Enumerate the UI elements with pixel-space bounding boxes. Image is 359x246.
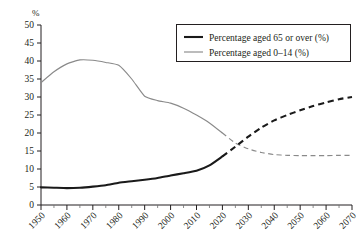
y-tick-label: 35 [25,74,35,84]
x-tick-label: 1970 [78,210,99,231]
x-tick-label: 2000 [156,210,177,231]
x-tick-label: 1960 [52,210,73,231]
y-axis-ticks [37,25,41,205]
chart-container: % 05101520253035404550 19501960197019801… [0,0,359,246]
y-tick-label: 0 [29,200,34,210]
legend-label-aged-0-14: Percentage aged 0–14 (%) [209,48,309,59]
x-tick-label: 1980 [104,210,125,231]
series-line-aged-0-14-projection [222,133,352,156]
x-tick-label: 1950 [26,210,47,231]
y-tick-label: 5 [29,182,34,192]
y-tick-label: 30 [25,92,35,102]
line-chart: % 05101520253035404550 19501960197019801… [0,0,359,246]
y-axis-tick-labels: 05101520253035404550 [25,20,35,210]
y-tick-label: 45 [25,38,35,48]
y-tick-label: 20 [25,128,35,138]
series-line-aged-65-over-historical [41,156,222,188]
x-tick-label: 2020 [208,210,229,231]
x-tick-label: 2040 [260,210,281,231]
x-tick-label: 2070 [337,210,358,231]
series-line-aged-65-over-projection [222,97,352,156]
y-tick-label: 10 [25,164,35,174]
x-tick-label: 2030 [234,210,255,231]
series-line-aged-0-14-historical [41,60,222,133]
x-axis-major-ticks [41,205,352,210]
y-tick-label: 25 [25,110,35,120]
x-tick-label: 2010 [182,210,203,231]
x-axis-tick-labels: 1950196019701980199020002010202020302040… [26,210,358,231]
legend-label-aged-65-over: Percentage aged 65 or over (%) [209,33,329,44]
x-tick-label: 2060 [311,210,332,231]
x-tick-label: 1990 [130,210,151,231]
chart-legend: Percentage aged 65 or over (%) Percentag… [177,25,351,62]
y-tick-label: 50 [25,20,35,30]
x-tick-label: 2050 [286,210,307,231]
y-axis-unit-label: % [32,8,40,18]
y-tick-label: 15 [25,146,35,156]
y-tick-label: 40 [25,56,35,66]
